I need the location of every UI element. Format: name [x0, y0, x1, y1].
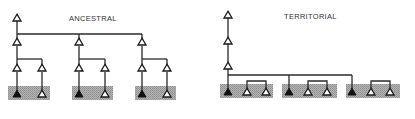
lineage-1-node-icon — [13, 38, 21, 45]
territorial-diagram: TERRITORIAL — [220, 11, 400, 98]
territorial-ancestor-3-node-icon — [224, 62, 232, 69]
ancestor-root-node-icon — [13, 14, 21, 21]
lineage-3-node-icon — [138, 38, 146, 45]
lineage-3b-node-icon — [163, 64, 171, 71]
lineage-3a-node-icon — [138, 64, 146, 71]
lineage-1a-node-icon — [13, 64, 21, 71]
ancestral-diagram: ANCESTRAL — [8, 14, 176, 100]
territorial-connectors — [228, 18, 390, 89]
lineage-2-node-icon — [75, 38, 83, 45]
diagram-canvas: ANCESTRAL — [0, 0, 415, 119]
lineage-1b-node-icon — [38, 64, 46, 71]
lineage-2a-node-icon — [75, 64, 83, 71]
ancestral-connectors — [17, 21, 167, 91]
territorial-title: TERRITORIAL — [284, 12, 337, 21]
ancestral-title: ANCESTRAL — [69, 14, 117, 23]
territorial-ancestor-1-node-icon — [224, 11, 232, 18]
territorial-ancestor-2-node-icon — [224, 37, 232, 44]
lineage-2b-node-icon — [101, 64, 109, 71]
